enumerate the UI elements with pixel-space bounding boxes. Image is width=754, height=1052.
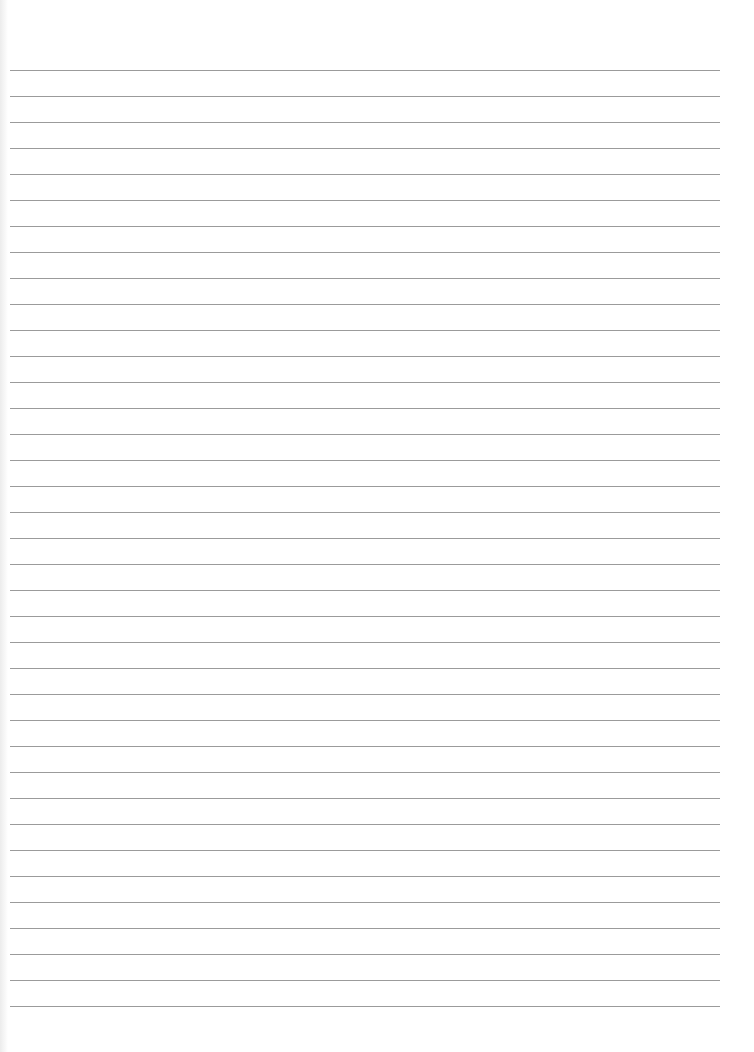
ruled-line: [10, 564, 720, 565]
ruled-line: [10, 876, 720, 877]
ruled-line: [10, 226, 720, 227]
ruled-line: [10, 460, 720, 461]
ruled-line: [10, 928, 720, 929]
ruled-line: [10, 590, 720, 591]
binding-edge-shadow: [0, 0, 8, 1052]
ruled-line: [10, 642, 720, 643]
ruled-line: [10, 174, 720, 175]
lined-paper-page: [0, 0, 754, 1052]
ruled-line: [10, 902, 720, 903]
ruled-line: [10, 252, 720, 253]
ruled-line: [10, 850, 720, 851]
ruled-line: [10, 434, 720, 435]
ruled-line: [10, 824, 720, 825]
ruled-line: [10, 694, 720, 695]
ruled-line: [10, 278, 720, 279]
ruled-line: [10, 980, 720, 981]
ruled-line: [10, 798, 720, 799]
ruled-line: [10, 720, 720, 721]
ruled-line: [10, 356, 720, 357]
ruled-line: [10, 772, 720, 773]
ruled-line: [10, 200, 720, 201]
ruled-line: [10, 330, 720, 331]
ruled-line: [10, 304, 720, 305]
ruled-line: [10, 538, 720, 539]
ruled-line: [10, 70, 720, 71]
ruled-line: [10, 382, 720, 383]
ruled-line: [10, 746, 720, 747]
ruled-line: [10, 486, 720, 487]
ruled-line: [10, 1006, 720, 1007]
ruled-line: [10, 512, 720, 513]
ruled-line: [10, 408, 720, 409]
ruled-line: [10, 122, 720, 123]
ruled-line: [10, 668, 720, 669]
ruled-line: [10, 148, 720, 149]
ruled-line: [10, 616, 720, 617]
ruled-line: [10, 954, 720, 955]
ruled-line: [10, 96, 720, 97]
